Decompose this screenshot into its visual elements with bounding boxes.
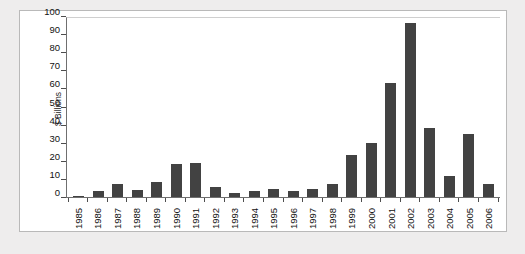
bar-slot xyxy=(362,18,382,197)
x-axis-tick-label: 1988 xyxy=(131,204,142,234)
x-axis-label-slot: 1999 xyxy=(342,202,362,232)
x-axis-tick-label: 1998 xyxy=(326,204,337,234)
x-axis-label-slot: 1993 xyxy=(224,202,244,232)
bar xyxy=(288,191,299,197)
x-axis-tick-label: 1987 xyxy=(111,204,122,234)
x-axis-label-slot: 1991 xyxy=(185,202,205,232)
bar xyxy=(463,134,474,197)
x-axis-label-slot: 1988 xyxy=(127,202,147,232)
bar xyxy=(268,189,279,197)
x-axis-tick-label: 2001 xyxy=(385,204,396,234)
bar xyxy=(366,143,377,197)
bar-slot xyxy=(479,18,499,197)
x-axis-label-slot: 2003 xyxy=(420,202,440,232)
bar xyxy=(132,190,143,197)
x-axis-label-slot: 1995 xyxy=(263,202,283,232)
x-axis-label-slot: 1998 xyxy=(322,202,342,232)
x-axis-label-slot: 1987 xyxy=(107,202,127,232)
bar-chart: $ Billions 1009080706050403020100 198519… xyxy=(20,11,506,231)
bar-slot xyxy=(206,18,226,197)
bar-slot xyxy=(245,18,265,197)
bar-slot xyxy=(147,18,167,197)
bar xyxy=(483,184,494,197)
y-axis-tick-label: 50 xyxy=(34,98,60,108)
x-axis-tick-label: 1991 xyxy=(190,204,201,234)
bar-slot xyxy=(128,18,148,197)
y-axis-tick-labels: 1009080706050403020100 xyxy=(34,17,60,198)
bar xyxy=(171,164,182,197)
y-axis-tick-label: 40 xyxy=(34,116,60,126)
bar xyxy=(112,184,123,197)
x-axis-tick-label: 1992 xyxy=(209,204,220,234)
x-axis-label-slot: 2005 xyxy=(459,202,479,232)
x-axis-tick-label: 2005 xyxy=(463,204,474,234)
bar xyxy=(307,189,318,197)
x-axis-tick-label: 2000 xyxy=(365,204,376,234)
y-axis-tick-label: 10 xyxy=(34,170,60,180)
x-axis-label-slot: 1989 xyxy=(146,202,166,232)
bar xyxy=(93,191,104,197)
bar-slot xyxy=(264,18,284,197)
y-axis-tick-label: 60 xyxy=(34,79,60,89)
bar-slot xyxy=(342,18,362,197)
bar xyxy=(190,163,201,197)
y-axis-tick-label: 30 xyxy=(34,134,60,144)
x-axis-label-slot: 1994 xyxy=(244,202,264,232)
x-axis-tick-labels: 1985198619871988198919901991199219931994… xyxy=(66,202,500,232)
figure-caption xyxy=(21,242,321,253)
x-axis-tick-label: 1989 xyxy=(150,204,161,234)
bar-slot xyxy=(89,18,109,197)
y-axis-tick-label: 20 xyxy=(34,152,60,162)
x-axis-label-slot: 2006 xyxy=(478,202,498,232)
y-axis-tick-label: 0 xyxy=(34,188,60,198)
x-axis-label-slot: 1992 xyxy=(205,202,225,232)
x-axis-label-slot: 2001 xyxy=(381,202,401,232)
bar xyxy=(327,184,338,197)
bar xyxy=(151,182,162,197)
bar-slot xyxy=(167,18,187,197)
bar xyxy=(210,187,221,197)
x-axis-tick-label: 1995 xyxy=(268,204,279,234)
x-axis-label-slot: 1985 xyxy=(68,202,88,232)
bar-slot xyxy=(401,18,421,197)
x-axis-label-slot: 1997 xyxy=(303,202,323,232)
x-axis-tick-label: 1990 xyxy=(170,204,181,234)
x-axis-label-slot: 2000 xyxy=(361,202,381,232)
x-axis-label-slot: 1996 xyxy=(283,202,303,232)
x-axis-tick-label: 2006 xyxy=(483,204,494,234)
x-axis-label-slot: 2004 xyxy=(439,202,459,232)
bar-slot xyxy=(69,18,89,197)
x-axis-tick-label: 2002 xyxy=(405,204,416,234)
bar-slot xyxy=(186,18,206,197)
bar-slot xyxy=(225,18,245,197)
x-axis-tick-label: 1993 xyxy=(229,204,240,234)
bar-slot xyxy=(420,18,440,197)
bar-slot xyxy=(459,18,479,197)
bar xyxy=(424,128,435,197)
x-axis-label-slot: 1986 xyxy=(88,202,108,232)
x-axis-tick-label: 1997 xyxy=(307,204,318,234)
bar xyxy=(346,155,357,197)
bar xyxy=(229,193,240,197)
x-axis-tick-label: 1985 xyxy=(72,204,83,234)
x-axis-tick-label: 1986 xyxy=(92,204,103,234)
bar xyxy=(385,83,396,197)
bar xyxy=(444,176,455,197)
bar-slot xyxy=(440,18,460,197)
y-axis-tick-label: 70 xyxy=(34,61,60,71)
x-axis-label-slot: 1990 xyxy=(166,202,186,232)
bars-layer xyxy=(67,18,500,197)
x-axis-tick-label: 1999 xyxy=(346,204,357,234)
bar-slot xyxy=(284,18,304,197)
x-axis-tick-label: 2004 xyxy=(444,204,455,234)
x-axis-tick-label: 1996 xyxy=(287,204,298,234)
y-axis-tick-label: 80 xyxy=(34,43,60,53)
bar xyxy=(405,23,416,197)
bar-slot xyxy=(323,18,343,197)
bar-slot xyxy=(303,18,323,197)
figure-panel: $ Billions 1009080706050403020100 198519… xyxy=(19,10,507,232)
y-axis-tick-label: 100 xyxy=(34,7,60,17)
bar xyxy=(249,191,260,197)
x-axis-tick-label: 1994 xyxy=(248,204,259,234)
bar xyxy=(73,196,84,197)
